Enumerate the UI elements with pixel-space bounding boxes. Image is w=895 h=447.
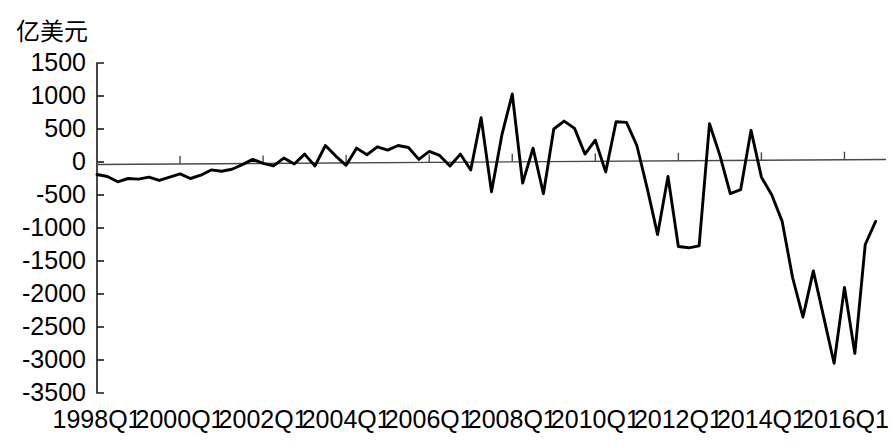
y-tick-label: 1500 [0,49,86,75]
y-tick-label: 1000 [0,82,86,108]
y-tick-label: -3500 [0,379,86,405]
y-tick-label: -3000 [0,346,86,372]
y-tick-label: -1500 [0,247,86,273]
y-tick-label: 0 [0,148,86,174]
data-series-group [97,94,876,363]
zero-baseline [97,160,886,165]
series-line [97,94,876,363]
y-tick-label: -2500 [0,313,86,339]
x-tick-label: 2016Q1 [789,406,895,432]
y-tick-label: -500 [0,181,86,207]
chart-container: 亿美元 150010005000-500-1000-1500-2000-2500… [0,0,895,447]
axis-spine-group [97,63,886,393]
y-tick-label: -1000 [0,214,86,240]
plot-area [0,0,895,447]
y-tick-label: 500 [0,115,86,141]
y-tick-label: -2000 [0,280,86,306]
y-axis-ticks [97,96,104,360]
